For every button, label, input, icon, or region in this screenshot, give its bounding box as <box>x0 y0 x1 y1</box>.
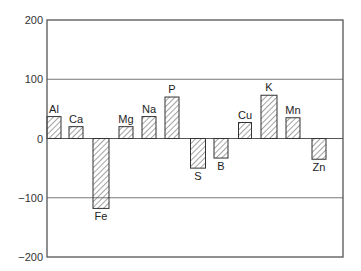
bar-label: Al <box>49 103 59 115</box>
bar-mn: Mn <box>285 104 300 139</box>
y-tick-label: 100 <box>25 73 43 85</box>
y-tick-label: 200 <box>25 14 43 26</box>
bar-fe: Fe <box>93 139 109 223</box>
bar-mg: Mg <box>118 113 133 139</box>
bar-zn: Zn <box>312 139 326 174</box>
bar-label: Cu <box>238 109 252 121</box>
y-axis: −200−1000100200 <box>18 14 43 263</box>
bar-p: P <box>165 83 179 138</box>
bar-label: Mg <box>118 113 133 125</box>
bar-label: Mn <box>285 104 300 116</box>
bar-chart: AlCaFeMgNaPSBCuKMnZn −200−1000100200 <box>0 0 361 271</box>
bar-label: B <box>217 160 224 172</box>
bar-label: K <box>265 81 273 93</box>
y-tick-label: −100 <box>18 192 43 204</box>
bar-label: Zn <box>313 161 326 173</box>
y-tick-label: −200 <box>18 251 43 263</box>
bar-ca: Ca <box>69 113 84 139</box>
bar-label: Na <box>142 103 157 115</box>
bar-label: Ca <box>69 113 84 125</box>
bar-label: Fe <box>95 210 108 222</box>
bar-b: B <box>214 139 228 173</box>
bars: AlCaFeMgNaPSBCuKMnZn <box>47 81 326 222</box>
bar-cu: Cu <box>238 109 252 139</box>
bar-na: Na <box>142 103 157 139</box>
bar-al: Al <box>47 103 61 139</box>
bar-label: S <box>194 170 201 182</box>
y-tick-label: 0 <box>37 133 43 145</box>
bar-s: S <box>191 139 206 183</box>
bar-k: K <box>261 81 277 138</box>
bar-label: P <box>168 83 175 95</box>
